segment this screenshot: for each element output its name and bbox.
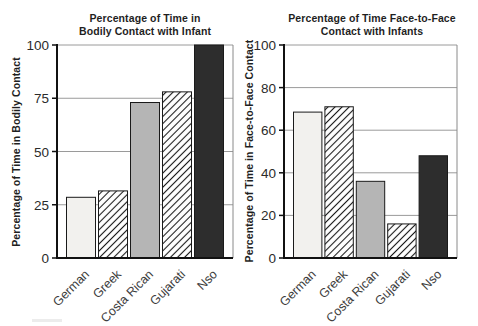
y-tick-label-75: 75: [34, 91, 49, 106]
category-label-gujarati: Gujarati: [372, 267, 413, 308]
bar-costa-rican: [356, 181, 384, 258]
y-tick-label-100: 100: [26, 38, 49, 53]
y-tick-label-60: 60: [261, 123, 276, 138]
category-label-german: German: [50, 267, 92, 309]
y-tick-label-80: 80: [261, 81, 276, 96]
bar-gujarati-hatch: [163, 92, 192, 258]
y-tick-label-25: 25: [34, 198, 49, 213]
bar-greek-hatch: [99, 191, 128, 258]
y-tick-label-20: 20: [261, 208, 276, 223]
y-tick-label-40: 40: [261, 166, 276, 181]
dual-bar-chart-figure: Percentage of Time in Bodily Contact wit…: [0, 0, 478, 326]
y-tick-label-0: 0: [268, 251, 276, 266]
bar-nso: [195, 45, 224, 258]
bar-greek-hatch: [325, 107, 353, 258]
category-label-gujarati: Gujarati: [147, 267, 188, 308]
y-tick-label-50: 50: [34, 145, 49, 160]
chart-bodily-contact: 0255075100GermanGreekCosta RicanGujarati…: [26, 38, 233, 325]
category-label-german: German: [277, 267, 319, 309]
bar-charts-canvas: 0255075100GermanGreekCosta RicanGujarati…: [0, 0, 478, 326]
scan-artifact: [32, 319, 62, 322]
bar-german: [294, 112, 322, 258]
y-tick-label-100: 100: [253, 38, 276, 53]
bar-gujarati-hatch: [388, 224, 416, 258]
bar-german: [67, 197, 96, 258]
chart-face-to-face-contact: 020406080100GermanGreekCosta RicanGujara…: [253, 38, 457, 325]
category-label-nso: Nso: [194, 267, 220, 293]
bar-costa-rican: [131, 103, 160, 258]
y-tick-label-0: 0: [41, 251, 49, 266]
category-label-nso: Nso: [419, 267, 445, 293]
bar-nso: [419, 156, 447, 258]
